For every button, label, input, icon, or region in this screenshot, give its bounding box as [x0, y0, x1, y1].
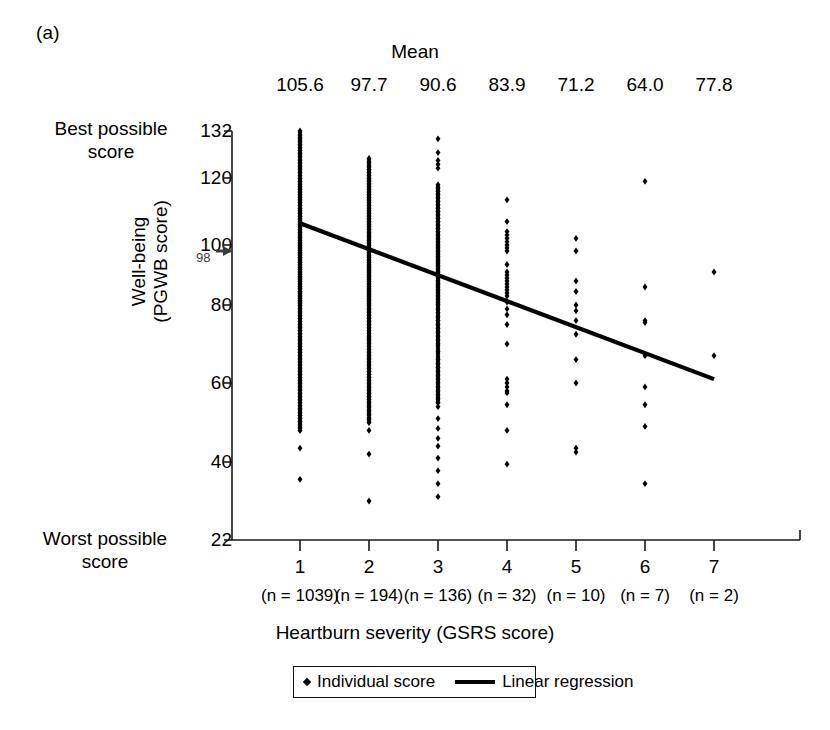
x-tick-label-1: 1: [295, 556, 306, 578]
legend-label-linear-regression: Linear regression: [502, 672, 633, 692]
legend-item-linear-regression: Linear regression: [435, 672, 633, 692]
x-axis-title: Heartburn severity (GSRS score): [0, 622, 830, 644]
figure-panel: (a) Mean 105.697.790.683.971.264.077.8 B…: [0, 0, 830, 730]
axis-lines: [232, 131, 800, 540]
x-tick-label-6: 6: [640, 556, 651, 578]
legend-label-individual-score: Individual score: [317, 672, 435, 692]
x-tick-label-5: 5: [571, 556, 582, 578]
sample-size-group-1: (n = 1039): [261, 586, 339, 606]
x-tick-label-2: 2: [364, 556, 375, 578]
x-tick-label-3: 3: [433, 556, 444, 578]
sample-size-group-4: (n = 32): [477, 586, 536, 606]
sample-size-group-3: (n = 136): [404, 586, 473, 606]
y-tick-marks: [224, 131, 232, 540]
sample-size-group-7: (n = 2): [689, 586, 739, 606]
sample-size-group-5: (n = 10): [546, 586, 605, 606]
x-axis-tick-labels: 1234567: [0, 556, 830, 582]
x-tick-marks: [300, 540, 714, 551]
chart-legend: Individual score Linear regression: [293, 666, 536, 698]
x-tick-label-4: 4: [502, 556, 513, 578]
legend-item-individual-score: Individual score: [294, 672, 435, 692]
sample-size-group-6: (n = 7): [620, 586, 670, 606]
scatter-plot-canvas: [0, 0, 830, 730]
data-points-layer: [298, 128, 717, 505]
x-tick-label-7: 7: [709, 556, 720, 578]
line-segment-icon: [455, 680, 495, 684]
sample-size-group-2: (n = 194): [335, 586, 404, 606]
x-axis-sample-size-labels: (n = 1039)(n = 194)(n = 136)(n = 32)(n =…: [0, 586, 830, 612]
reference-98-arrow-icon: [216, 246, 232, 256]
diamond-marker-icon: [303, 678, 311, 686]
